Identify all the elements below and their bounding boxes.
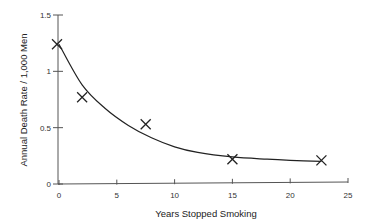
y-tick-label: 1.5 xyxy=(40,11,52,20)
x-tick-label: 20 xyxy=(286,191,295,200)
fit-curve-path xyxy=(59,44,321,161)
chart: 00.511.50510152025 Years Stopped Smoking… xyxy=(0,0,365,224)
x-tick-label: 15 xyxy=(228,191,237,200)
x-axis-title: Years Stopped Smoking xyxy=(155,208,257,219)
x-tick-label: 10 xyxy=(170,191,179,200)
data-markers xyxy=(52,39,326,165)
y-axis-title: Annual Death Rate / 1,000 Men xyxy=(18,33,29,166)
y-tick-label: 1 xyxy=(47,67,52,76)
data-point-x-marker-icon xyxy=(141,119,151,129)
chart-plot: 00.511.50510152025 Years Stopped Smoking… xyxy=(0,0,365,224)
x-tick-label: 25 xyxy=(344,191,353,200)
x-axis-line xyxy=(58,182,348,184)
data-point-x-marker-icon xyxy=(227,154,237,164)
data-point-x-marker-icon xyxy=(316,155,326,165)
x-tick-label: 5 xyxy=(115,191,120,200)
x-tick-label: 0 xyxy=(57,191,62,200)
data-point-x-marker-icon xyxy=(52,39,62,49)
y-tick-label: 0.5 xyxy=(40,124,52,133)
axes: 00.511.50510152025 xyxy=(40,11,353,200)
data-point-x-marker-icon xyxy=(77,92,87,102)
fit-curve xyxy=(59,44,321,161)
y-tick-label: 0 xyxy=(47,180,52,189)
